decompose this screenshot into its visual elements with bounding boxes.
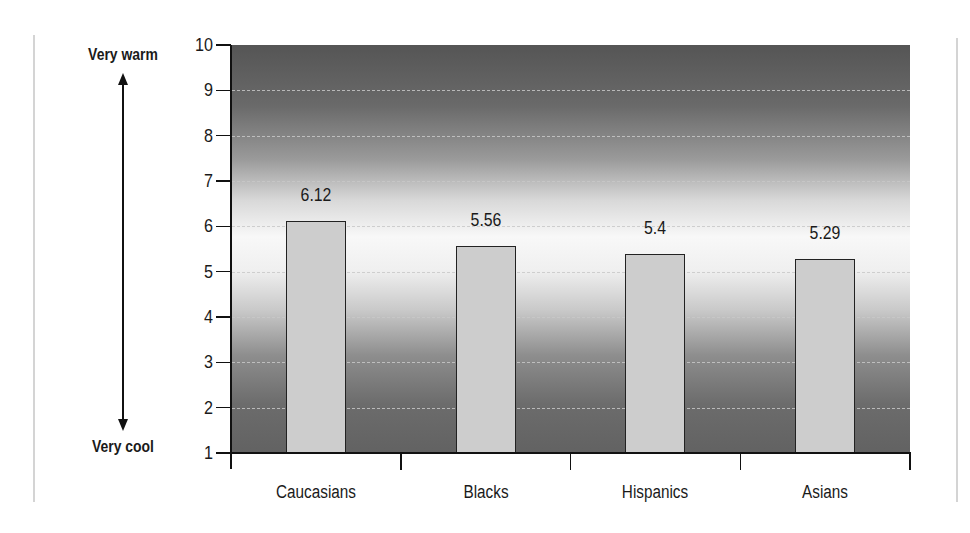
y-tick-label: 6 bbox=[179, 216, 213, 236]
y-tick-label: 3 bbox=[179, 352, 213, 372]
arrow-shaft bbox=[122, 84, 124, 420]
x-category-label: Asians bbox=[757, 482, 893, 503]
y-tick-label: 4 bbox=[179, 307, 213, 327]
bar-value-label: 5.29 bbox=[790, 223, 860, 244]
very-warm-label: Very warm bbox=[74, 45, 172, 65]
y-tick-label: 5 bbox=[179, 262, 213, 282]
y-tick-mark bbox=[216, 452, 231, 454]
gridline bbox=[232, 90, 910, 91]
y-tick-label: 9 bbox=[179, 80, 213, 100]
y-tick-label: 8 bbox=[179, 126, 213, 146]
y-tick-mark bbox=[216, 90, 231, 92]
y-axis bbox=[230, 45, 232, 469]
bar-value-label: 6.12 bbox=[281, 185, 351, 206]
frame-left-line bbox=[33, 35, 35, 240]
y-tick-mark bbox=[216, 362, 231, 364]
x-tick-mark bbox=[740, 453, 742, 470]
frame-right-line bbox=[956, 38, 958, 502]
x-category-label: Hispanics bbox=[587, 482, 723, 503]
y-tick-mark bbox=[216, 316, 231, 318]
x-axis bbox=[230, 452, 911, 454]
y-tick-mark bbox=[216, 226, 231, 228]
y-tick-label: 2 bbox=[179, 398, 213, 418]
x-tick-mark bbox=[909, 453, 911, 470]
y-tick-label: 1 bbox=[179, 443, 213, 463]
x-tick-mark bbox=[570, 453, 572, 470]
very-cool-label: Very cool bbox=[74, 437, 172, 457]
gridline bbox=[232, 136, 910, 137]
y-tick-label: 10 bbox=[179, 35, 213, 55]
frame-left-line-lower bbox=[33, 240, 35, 502]
y-tick-mark bbox=[216, 44, 231, 46]
x-category-label: Blacks bbox=[418, 482, 554, 503]
y-tick-mark bbox=[216, 180, 231, 182]
arrow-down-icon bbox=[118, 419, 128, 431]
y-tick-label: 7 bbox=[179, 171, 213, 191]
y-tick-mark bbox=[216, 135, 231, 137]
bar-asians bbox=[795, 259, 855, 453]
bar-caucasians bbox=[286, 221, 346, 453]
x-tick-mark bbox=[400, 453, 402, 470]
bar-blacks bbox=[456, 246, 516, 453]
bar-value-label: 5.56 bbox=[450, 210, 520, 231]
bar-hispanics bbox=[625, 254, 685, 453]
y-tick-mark bbox=[216, 407, 231, 409]
x-category-label: Caucasians bbox=[248, 482, 384, 503]
gridline bbox=[232, 181, 910, 182]
y-tick-mark bbox=[216, 271, 231, 273]
bar-value-label: 5.4 bbox=[620, 218, 690, 239]
